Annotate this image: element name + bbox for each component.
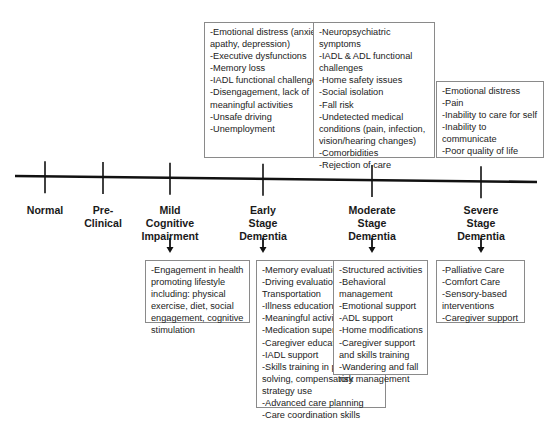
list-item: -Engagement in health promoting lifestyl… bbox=[151, 264, 245, 337]
stage-label-normal: Normal bbox=[27, 204, 64, 217]
timeline-axis bbox=[15, 176, 537, 182]
interventions-box-moderate: -Structured activities-Behavioral manage… bbox=[333, 260, 428, 375]
down-arrow-icon bbox=[165, 238, 175, 254]
list-item: -Emotional support bbox=[339, 300, 423, 312]
list-item: -ADL support bbox=[339, 312, 423, 324]
list-item: -Wandering and fall risk management bbox=[339, 361, 423, 385]
list-item: -Behavioral management bbox=[339, 276, 423, 300]
list-item: -Sensory-based interventions bbox=[442, 288, 520, 312]
list-item: -Caregiver support bbox=[442, 312, 520, 324]
down-arrow-icon bbox=[258, 238, 268, 254]
list-item: -Palliative Care bbox=[442, 264, 520, 276]
down-arrow-icon bbox=[367, 238, 377, 254]
list-item: -Caregiver support and skills training bbox=[339, 337, 423, 361]
list-item: -Advanced care planning bbox=[262, 397, 381, 409]
list-item: -Comfort Care bbox=[442, 276, 520, 288]
list-item: -Structured activities bbox=[339, 264, 423, 276]
interventions-box-severe: -Palliative Care-Comfort Care-Sensory-ba… bbox=[436, 260, 525, 323]
down-arrow-icon bbox=[476, 238, 486, 254]
stage-label-pre-clinical: Pre-Clinical bbox=[84, 204, 122, 230]
list-item: -Care coordination skills bbox=[262, 409, 381, 421]
list-item: -Home modifications bbox=[339, 324, 423, 336]
interventions-box-mci: -Engagement in health promoting lifestyl… bbox=[145, 260, 250, 323]
